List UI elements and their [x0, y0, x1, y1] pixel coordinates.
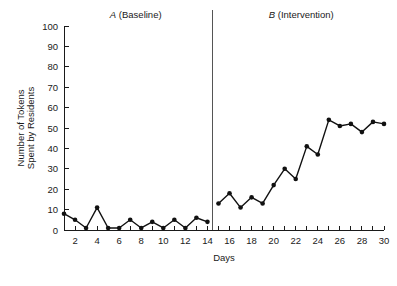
data-point	[150, 220, 155, 225]
y-tick-label: 100	[42, 21, 58, 32]
x-tick-label: 20	[268, 235, 279, 246]
phase-name: (Baseline)	[116, 9, 161, 20]
data-point	[249, 195, 254, 200]
data-point	[95, 205, 100, 210]
phase-a-label: A (Baseline)	[109, 9, 162, 20]
data-point	[106, 226, 111, 231]
data-point	[271, 183, 276, 188]
data-point	[216, 201, 221, 206]
data-point	[227, 191, 232, 196]
data-point	[293, 177, 298, 182]
data-point	[128, 218, 133, 223]
x-tick-label: 18	[246, 235, 257, 246]
series-line-segment-2	[218, 120, 384, 208]
y-tick-label: 20	[47, 184, 58, 195]
y-tick-label: 0	[53, 225, 58, 236]
data-point	[139, 226, 144, 231]
data-point	[62, 211, 67, 216]
phase-letter: A	[109, 9, 116, 20]
y-tick-label: 60	[47, 102, 58, 113]
x-tick-label: 4	[94, 235, 99, 246]
phase-name: (Intervention)	[275, 9, 334, 20]
data-point	[338, 124, 343, 129]
x-tick-label: 24	[313, 235, 324, 246]
x-tick-label: 16	[224, 235, 235, 246]
data-point	[172, 218, 177, 223]
y-tick-label: 90	[47, 41, 58, 52]
x-tick-label: 22	[290, 235, 301, 246]
x-axis-title: Days	[213, 252, 235, 263]
data-point	[194, 215, 199, 220]
y-tick-label: 10	[47, 204, 58, 215]
data-point	[117, 226, 122, 231]
data-point	[205, 220, 210, 225]
x-tick-label: 14	[202, 235, 213, 246]
y-axis-title-line-2: Spent by Residents	[25, 87, 36, 170]
data-point	[304, 144, 309, 149]
x-tick-label: 30	[379, 235, 390, 246]
x-tick-label: 12	[180, 235, 191, 246]
data-point	[183, 226, 188, 231]
y-tick-label: 40	[47, 143, 58, 154]
data-point	[371, 120, 376, 125]
data-point	[282, 167, 287, 172]
y-tick-label: 70	[47, 82, 58, 93]
phase-b-label: B (Intervention)	[269, 9, 334, 20]
x-tick-label: 26	[335, 235, 346, 246]
x-tick-label: 8	[139, 235, 144, 246]
y-tick-label: 50	[47, 123, 58, 134]
data-point	[327, 118, 332, 123]
data-point	[73, 218, 78, 223]
data-point	[349, 122, 354, 127]
y-tick-label: 30	[47, 163, 58, 174]
data-point	[161, 226, 166, 231]
x-tick-label: 10	[158, 235, 169, 246]
data-point	[360, 130, 365, 135]
x-tick-label: 2	[72, 235, 77, 246]
y-tick-label: 80	[47, 61, 58, 72]
data-point	[382, 122, 387, 127]
data-point	[238, 205, 243, 210]
x-tick-label: 28	[357, 235, 368, 246]
x-tick-label: 6	[117, 235, 122, 246]
data-point	[260, 201, 265, 206]
data-point	[315, 152, 320, 157]
chart-canvas: 0102030405060708090100246810121416182022…	[0, 0, 397, 286]
chart-figure: 0102030405060708090100246810121416182022…	[0, 0, 397, 286]
data-point	[84, 226, 89, 231]
series-line-segment-1	[64, 208, 207, 228]
